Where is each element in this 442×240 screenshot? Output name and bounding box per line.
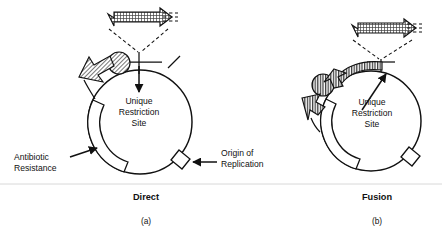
antibiotic-resistance-label-line1: Antibiotic <box>14 152 50 162</box>
panel-a-letter: (a) <box>141 216 151 226</box>
restriction-site-label-fusion-line3: Site <box>365 119 380 129</box>
origin-label-line1: Origin of <box>221 148 254 158</box>
antibiotic-resistance-label-line2: Resistance <box>14 163 57 173</box>
panel-a-caption: Direct <box>133 192 159 202</box>
restriction-site-label-fusion-line1: Unique <box>358 97 385 107</box>
panel-b-letter: (b) <box>372 216 382 226</box>
restriction-site-label-line1: Unique <box>125 96 152 106</box>
restriction-site-label-line2: Restriction <box>119 107 160 117</box>
figure-root: Unique Restriction Site Antibiotic Resis… <box>0 0 442 240</box>
panel-b-caption: Fusion <box>362 192 392 202</box>
restriction-site-label-fusion-line2: Restriction <box>352 108 393 118</box>
origin-label-line2: Replication <box>221 159 264 169</box>
plasmid-figure-svg: Unique Restriction Site Antibiotic Resis… <box>0 0 442 240</box>
restriction-site-label-line3: Site <box>132 118 147 128</box>
